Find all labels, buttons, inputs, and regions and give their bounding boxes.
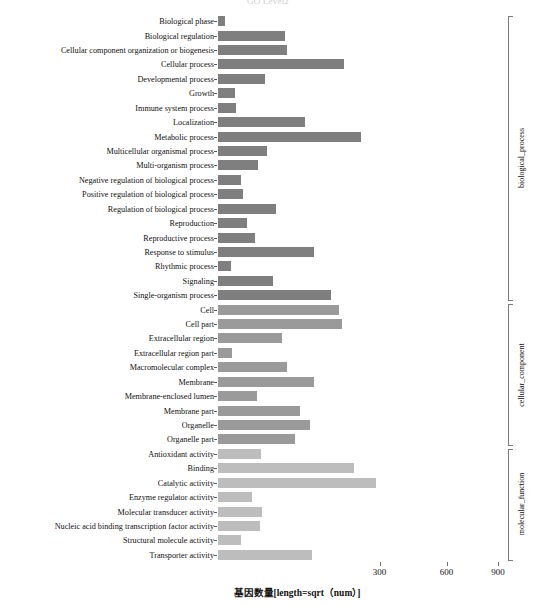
bar-row: Membrane part [0, 403, 535, 417]
bar [218, 521, 260, 531]
y-axis-label: Extracellular region part [134, 348, 214, 357]
y-axis-tick [214, 367, 217, 368]
bar-row: Extracellular region [0, 331, 535, 345]
y-axis-label: Growth [189, 89, 214, 98]
y-axis-tick [214, 396, 217, 397]
bar-row: Metabolic process [0, 129, 535, 143]
y-axis-label: Biological regulation [145, 31, 214, 40]
y-axis-tick [214, 425, 217, 426]
y-axis-label: Rhythmic process [155, 262, 214, 271]
bar [218, 391, 257, 401]
bar [218, 449, 261, 459]
bar [218, 377, 314, 387]
y-axis-label: Macromolecular complex [130, 363, 214, 372]
y-axis-tick [214, 540, 217, 541]
y-axis-label: Molecular transducer activity [118, 507, 214, 516]
bar-row: Extracellular region part [0, 346, 535, 360]
bar [218, 550, 312, 560]
y-axis-label: Structural molecule activity [123, 536, 214, 545]
y-axis-tick [214, 93, 217, 94]
y-axis-tick [214, 512, 217, 513]
y-axis-tick [214, 50, 217, 51]
y-axis-tick [214, 555, 217, 556]
bar-row: Transporter activity [0, 548, 535, 562]
bar [218, 420, 310, 430]
y-axis-label: Cell part [186, 320, 214, 329]
y-axis-tick [214, 353, 217, 354]
x-axis-title-text: 基因数量[length=sqrt（num）] [234, 588, 361, 598]
bar [218, 103, 236, 113]
y-axis-tick [214, 454, 217, 455]
bar [218, 247, 314, 257]
y-axis-label: Single-organism process [133, 291, 214, 300]
bar-row: Organelle part [0, 432, 535, 446]
y-axis-tick [214, 281, 217, 282]
y-axis-label: Binding [188, 464, 214, 473]
y-axis-tick [214, 137, 217, 138]
y-axis-tick [214, 64, 217, 65]
bracket-cap [508, 560, 513, 561]
y-axis-tick [214, 165, 217, 166]
y-axis-tick [214, 266, 217, 267]
bar [218, 319, 342, 329]
bar [218, 406, 300, 416]
bar-row: Regulation of biological process [0, 201, 535, 215]
bar-row: Response to stimulus [0, 245, 535, 259]
bracket-label-molecular_function: molecular_function [517, 473, 526, 536]
bar [218, 276, 273, 286]
bar-row: Membrane [0, 375, 535, 389]
y-axis-label: Localization [173, 118, 214, 127]
bar [218, 463, 354, 473]
bar-row: Biological regulation [0, 28, 535, 42]
bar-row: Nucleic acid binding transcription facto… [0, 519, 535, 533]
bar-rows-container: Biological phaseBiological regulationCel… [0, 0, 535, 606]
x-axis-tick-label: 900 [491, 567, 505, 577]
bracket-cap [508, 16, 513, 17]
y-axis-label: Metabolic process [154, 132, 214, 141]
bar-row: Molecular transducer activity [0, 504, 535, 518]
y-axis-label: Biological phase [159, 17, 214, 26]
y-axis-tick [214, 338, 217, 339]
bar [218, 16, 225, 26]
y-axis-tick [214, 108, 217, 109]
bar-row: Biological phase [0, 14, 535, 28]
x-axis-tick [447, 562, 448, 566]
bar [218, 117, 305, 127]
bar-row: Reproduction [0, 216, 535, 230]
bar-row: Cellular component organization or bioge… [0, 43, 535, 57]
bar [218, 333, 282, 343]
y-axis-tick [214, 180, 217, 181]
y-axis-tick [214, 122, 217, 123]
y-axis-label: Membrane [179, 377, 214, 386]
bracket-line-biological_process [508, 16, 509, 300]
bar [218, 305, 339, 315]
bar-row: Cell part [0, 317, 535, 331]
y-axis-label: Organelle part [167, 435, 214, 444]
y-axis-label: Cellular component organization or bioge… [61, 46, 214, 55]
bar [218, 31, 285, 41]
bar [218, 160, 258, 170]
y-axis-label: Cell [200, 305, 214, 314]
bar-row: Cellular process [0, 57, 535, 71]
y-axis-tick [214, 497, 217, 498]
y-axis-tick [214, 526, 217, 527]
y-axis-label: Membrane part [164, 406, 214, 415]
y-axis-label: Extracellular region [149, 334, 214, 343]
bar [218, 507, 262, 517]
bar-row: Negative regulation of biological proces… [0, 173, 535, 187]
bracket-cap [508, 445, 513, 446]
y-axis-label: Response to stimulus [144, 247, 214, 256]
y-axis-tick [214, 310, 217, 311]
y-axis-label: Regulation of biological process [108, 204, 214, 213]
bar-row: Localization [0, 115, 535, 129]
x-axis-tick-label: 300 [373, 567, 387, 577]
y-axis-label: Transporter activity [149, 550, 214, 559]
bar [218, 146, 267, 156]
y-axis-tick [214, 223, 217, 224]
y-axis-label: Enzyme regulator activity [129, 493, 214, 502]
x-axis-tick [498, 562, 499, 566]
bar [218, 175, 241, 185]
y-axis-tick [214, 194, 217, 195]
x-axis-tick [380, 562, 381, 566]
bar-row: Membrane-enclosed lumen [0, 389, 535, 403]
